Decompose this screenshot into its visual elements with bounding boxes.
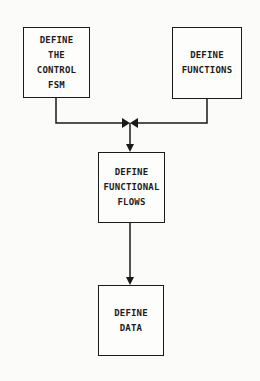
arrowhead-right-icon (122, 118, 130, 128)
node-label: DEFINE THE CONTROL FSM (37, 33, 76, 93)
node-label: DEFINE FUNCTIONS (182, 48, 233, 78)
node-label: DEFINE DATA (114, 306, 148, 336)
node-define-data: DEFINE DATA (98, 285, 164, 356)
connector-fsm-to-junction (56, 97, 122, 123)
node-define-functional-flows: DEFINE FUNCTIONAL FLOWS (98, 152, 165, 223)
arrowhead-left-icon (130, 118, 138, 128)
node-define-control-fsm: DEFINE THE CONTROL FSM (23, 27, 90, 98)
arrowhead-down-icon (126, 144, 134, 152)
arrowhead-down-icon (126, 277, 134, 285)
node-define-functions: DEFINE FUNCTIONS (172, 27, 242, 99)
connector-functions-to-junction (138, 98, 207, 123)
node-label: DEFINE FUNCTIONAL FLOWS (103, 165, 159, 210)
